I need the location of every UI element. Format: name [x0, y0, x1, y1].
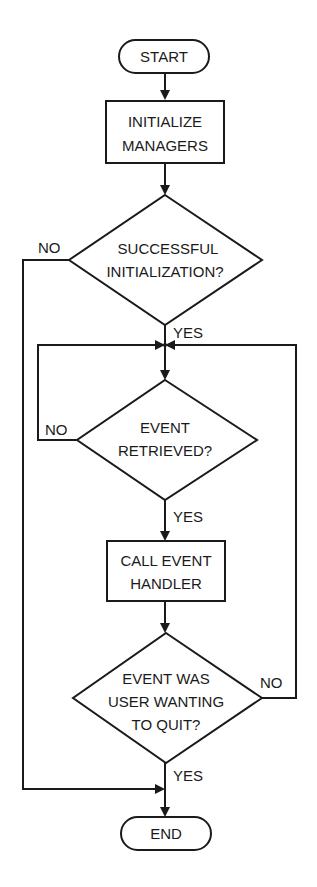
init-label-line1: INITIALIZE — [128, 113, 202, 130]
initialize-managers-process: INITIALIZE MANAGERS — [106, 101, 224, 163]
successful-initialization-decision: SUCCESSFUL INITIALIZATION? — [69, 195, 262, 325]
decision3-label-line2: USER WANTING — [108, 693, 224, 710]
handler-label-line1: CALL EVENT — [120, 552, 211, 569]
edge-decision1-yes — [160, 325, 170, 380]
start-terminal: START — [119, 40, 209, 73]
decision1-yes-label: YES — [173, 324, 203, 341]
decision3-yes-label: YES — [173, 767, 203, 784]
user-wanting-to-quit-decision: EVENT WAS USER WANTING TO QUIT? — [73, 633, 262, 763]
decision3-label-line3: TO QUIT? — [132, 716, 201, 733]
decision3-label-line1: EVENT WAS — [122, 670, 210, 687]
edge-start-to-init — [160, 73, 170, 100]
edge-init-to-decision1 — [160, 163, 170, 195]
decision1-label-line2: INITIALIZATION? — [106, 263, 223, 280]
start-label: START — [140, 48, 188, 65]
handler-label-line2: HANDLER — [130, 575, 202, 592]
decision1-no-label: NO — [38, 239, 61, 256]
decision2-label-line2: RETRIEVED? — [118, 442, 212, 459]
decision2-label-line1: EVENT — [140, 419, 190, 436]
end-terminal: END — [121, 817, 211, 850]
decision3-no-label: NO — [260, 674, 283, 691]
edge-decision2-yes — [160, 500, 170, 541]
call-event-handler-process: CALL EVENT HANDLER — [107, 541, 225, 601]
decision2-yes-label: YES — [173, 508, 203, 525]
edge-handler-to-decision3 — [160, 601, 170, 633]
end-label: END — [150, 825, 182, 842]
flowchart: START INITIALIZE MANAGERS SUCCESSFUL INI… — [0, 0, 317, 887]
decision1-label-line1: SUCCESSFUL — [118, 240, 219, 257]
event-retrieved-decision: EVENT RETRIEVED? — [77, 380, 257, 500]
decision2-no-label: NO — [45, 421, 68, 438]
init-label-line2: MANAGERS — [122, 137, 208, 154]
